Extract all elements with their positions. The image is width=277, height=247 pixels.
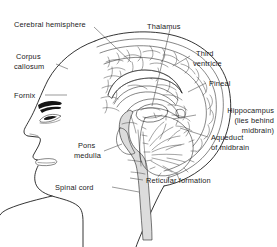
label-medulla: medulla	[74, 151, 102, 160]
diagram-canvas: Cerebral hemisphere Thalamus Corpus call…	[0, 0, 277, 247]
label-hippocampus-note1: (lies behind	[234, 116, 274, 125]
label-hippocampus-note2: midbrain)	[242, 126, 274, 135]
label-thalamus: Thalamus	[147, 22, 181, 31]
label-callosum: callosum	[14, 62, 44, 71]
label-ventricle: ventricle	[193, 59, 222, 68]
label-cerebral-hemisphere: Cerebral hemisphere	[14, 20, 86, 29]
label-reticular-formation: Reticular formation	[146, 176, 211, 185]
label-aqueduct: Aqueduct	[211, 133, 243, 142]
label-pineal: Pineal	[209, 79, 231, 88]
brain-sagittal-diagram: Cerebral hemisphere Thalamus Corpus call…	[0, 0, 277, 247]
label-third: Third	[196, 49, 214, 58]
label-pons: Pons	[78, 141, 96, 150]
label-spinal-cord: Spinal cord	[55, 183, 94, 192]
label-hippocampus: Hippocampus	[227, 106, 274, 115]
label-fornix: Fornix	[14, 91, 36, 100]
label-corpus: Corpus	[16, 52, 41, 61]
label-of-midbrain: of midbrain	[211, 143, 249, 152]
